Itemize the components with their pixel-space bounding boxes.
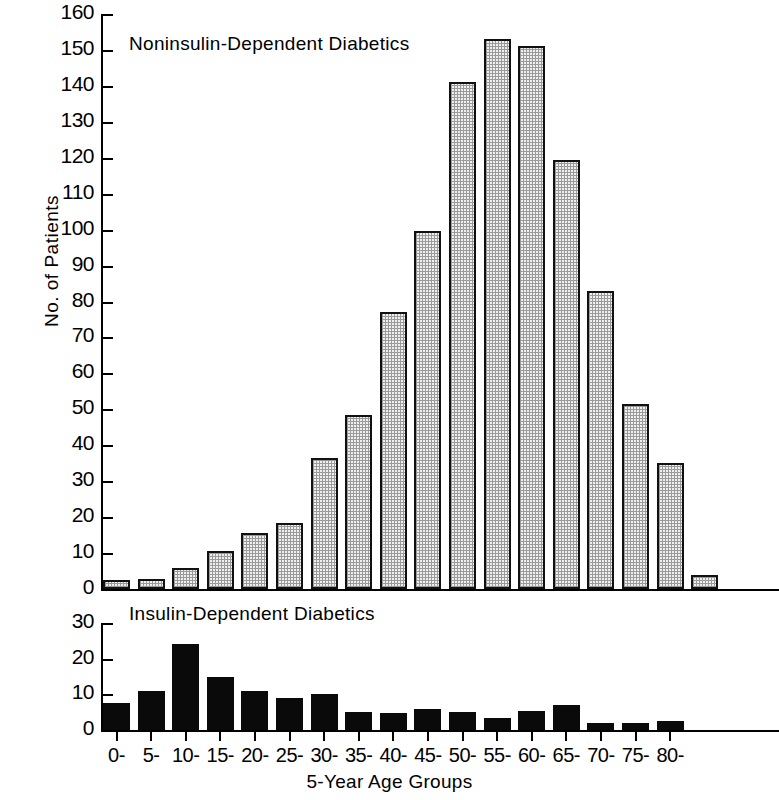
x-tick-mark: [600, 732, 602, 741]
lower-y-tick-label: 30: [0, 609, 94, 633]
upper-y-tick-label: 90: [0, 252, 94, 276]
upper-y-tick-mark: [103, 122, 113, 124]
upper-bar: [518, 46, 545, 589]
upper-bar: [172, 568, 199, 589]
upper-y-tick-mark: [103, 589, 113, 591]
upper-bar: [207, 551, 234, 589]
upper-y-tick-mark: [103, 302, 113, 304]
x-tick-mark: [150, 732, 152, 741]
upper-panel-label: Noninsulin-Dependent Diabetics: [129, 33, 409, 55]
x-tick-mark: [427, 732, 429, 741]
upper-bar: [622, 404, 649, 589]
upper-bar: [380, 312, 407, 589]
x-tick-mark: [635, 732, 637, 741]
upper-y-tick-mark: [103, 337, 113, 339]
lower-bar: [138, 691, 165, 730]
lower-bar: [484, 718, 511, 730]
x-tick-mark: [116, 732, 118, 741]
x-tick-mark: [565, 732, 567, 741]
lower-bar: [553, 705, 580, 730]
x-tick-mark: [462, 732, 464, 741]
lower-bar: [172, 644, 199, 730]
x-tick-mark: [219, 732, 221, 741]
upper-y-tick-mark: [103, 553, 113, 555]
upper-y-tick-label: 80: [0, 288, 94, 312]
upper-bar: [345, 415, 372, 589]
upper-y-tick-mark: [103, 266, 113, 268]
x-tick-mark: [358, 732, 360, 741]
upper-y-tick-mark: [103, 409, 113, 411]
upper-bar-partial: [691, 575, 718, 589]
upper-y-tick-label: 160: [0, 0, 94, 24]
upper-y-tick-mark: [103, 481, 113, 483]
upper-y-tick-label: 0: [0, 575, 94, 599]
upper-y-tick-mark: [103, 373, 113, 375]
lower-y-tick-mark: [103, 623, 113, 625]
lower-bar: [657, 721, 684, 730]
x-tick-mark: [669, 732, 671, 741]
lower-bar: [311, 694, 338, 730]
upper-y-tick-mark: [103, 86, 113, 88]
upper-bar: [484, 39, 511, 589]
upper-bar: [276, 523, 303, 589]
lower-bar: [380, 713, 407, 730]
upper-y-tick-mark: [103, 14, 113, 16]
upper-y-tick-mark: [103, 158, 113, 160]
upper-y-tick-label: 120: [0, 144, 94, 168]
lower-bar: [241, 691, 268, 730]
upper-y-tick-label: 30: [0, 467, 94, 491]
upper-bar: [103, 580, 130, 589]
upper-bar: [657, 463, 684, 589]
lower-bar: [587, 723, 614, 730]
x-axis-title: 5-Year Age Groups: [0, 771, 779, 793]
x-tick-label: 80-: [644, 744, 696, 767]
upper-y-tick-mark: [103, 517, 113, 519]
upper-x-axis: [101, 589, 779, 591]
upper-y-tick-label: 110: [0, 180, 94, 204]
lower-bar: [622, 723, 649, 730]
upper-y-tick-mark: [103, 230, 113, 232]
lower-y-tick-mark: [103, 659, 113, 661]
upper-y-tick-label: 10: [0, 539, 94, 563]
upper-bar: [138, 579, 165, 589]
upper-bar: [449, 82, 476, 589]
upper-y-tick-mark: [103, 50, 113, 52]
upper-y-tick-mark: [103, 194, 113, 196]
lower-bar: [207, 677, 234, 730]
lower-y-tick-label: 0: [0, 716, 94, 740]
x-tick-mark: [392, 732, 394, 741]
lower-bar: [345, 712, 372, 730]
upper-y-tick-label: 20: [0, 503, 94, 527]
lower-panel-label: Insulin-Dependent Diabetics: [129, 603, 375, 625]
upper-y-tick-label: 40: [0, 431, 94, 455]
upper-y-tick-mark: [103, 445, 113, 447]
lower-bar: [276, 698, 303, 730]
x-tick-mark: [531, 732, 533, 741]
upper-y-tick-label: 70: [0, 323, 94, 347]
upper-y-tick-label: 150: [0, 36, 94, 60]
x-tick-mark: [254, 732, 256, 741]
lower-bar: [518, 711, 545, 730]
lower-y-tick-mark: [103, 694, 113, 696]
lower-bar: [414, 709, 441, 730]
lower-y-tick-label: 20: [0, 645, 94, 669]
upper-bar: [553, 160, 580, 589]
upper-bar: [311, 458, 338, 589]
upper-y-tick-label: 100: [0, 216, 94, 240]
lower-y-tick-mark: [103, 730, 113, 732]
upper-bar: [587, 291, 614, 589]
upper-bar: [241, 533, 268, 589]
x-tick-mark: [496, 732, 498, 741]
upper-bar: [414, 231, 441, 589]
figure-canvas: No. of Patients 160150140130120110100908…: [0, 0, 779, 800]
x-tick-mark: [185, 732, 187, 741]
x-tick-mark: [289, 732, 291, 741]
upper-y-tick-label: 140: [0, 72, 94, 96]
x-tick-mark: [323, 732, 325, 741]
upper-y-tick-label: 130: [0, 108, 94, 132]
upper-y-tick-label: 50: [0, 395, 94, 419]
lower-x-axis: [101, 730, 779, 732]
lower-bar: [103, 703, 130, 730]
lower-y-tick-label: 10: [0, 680, 94, 704]
lower-bar: [449, 712, 476, 730]
